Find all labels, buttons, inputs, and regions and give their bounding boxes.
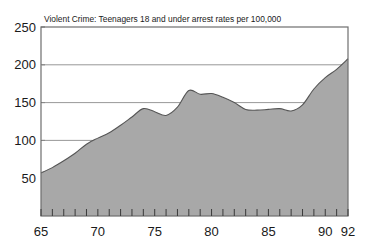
violent-crime-area-chart: Violent Crime: Teenagers 18 and under ar… — [0, 0, 369, 249]
x-tick-label: 80 — [204, 224, 218, 239]
x-tick-label: 90 — [318, 224, 332, 239]
x-tick-label: 85 — [261, 224, 275, 239]
y-tick-label: 200 — [14, 57, 36, 72]
y-tick-label: 100 — [14, 133, 36, 148]
x-tick-label: 70 — [91, 224, 105, 239]
x-tick-label: 75 — [147, 224, 161, 239]
area-fill-path — [41, 59, 348, 216]
x-tick-label: 92 — [341, 224, 355, 239]
x-axis-tick-labels: 65707580859092 — [34, 224, 355, 239]
y-axis-tick-labels: 50100150200250 — [14, 20, 45, 186]
y-tick-label: 150 — [14, 95, 36, 110]
y-tick-label: 250 — [14, 20, 36, 35]
x-tick-label: 65 — [34, 224, 48, 239]
chart-canvas: Violent Crime: Teenagers 18 and under ar… — [0, 0, 369, 249]
area-series-group — [41, 59, 348, 216]
y-tick-label: 50 — [22, 171, 36, 186]
chart-title: Violent Crime: Teenagers 18 and under ar… — [44, 14, 281, 24]
